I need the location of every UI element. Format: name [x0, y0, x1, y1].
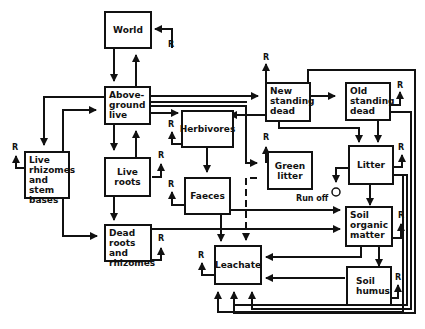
- label-r-green-litter: R: [263, 133, 269, 142]
- arrow-r-soil-humus: [391, 285, 398, 298]
- node-leachate: Leachate: [214, 245, 262, 285]
- arrow-r-soil-organic-matter: [393, 224, 401, 238]
- node-litter-label: Litter: [357, 160, 385, 170]
- node-old-standing-dead: Old standing dead: [345, 82, 391, 121]
- node-leachate-label: Leachate: [215, 260, 261, 270]
- label-r-dead-roots: R: [158, 234, 164, 243]
- arrow-r-leachate: [202, 263, 214, 275]
- node-live-roots-label: Live roots: [109, 167, 146, 187]
- label-r-new-standing-dead: R: [263, 53, 269, 62]
- node-herbivores: Herbivores: [181, 110, 234, 148]
- label-run-off: Run off: [296, 194, 328, 203]
- node-new-standing-dead: New standing dead: [265, 82, 311, 122]
- run-off-sink-icon: [332, 188, 340, 196]
- label-r-live-roots: R: [158, 151, 164, 160]
- label-r-litter: R: [398, 143, 404, 152]
- label-r-old-standing-dead: R: [397, 81, 403, 90]
- node-dead-roots: Dead roots and rhizomes: [104, 224, 152, 262]
- label-r-faeces: R: [168, 180, 174, 189]
- arrow-aboveground-to-live-rhizomes: [44, 97, 104, 145]
- node-world-label: World: [113, 25, 143, 35]
- arrow-soil-organic-matter-to-leachate: [266, 246, 361, 257]
- label-r-soil-organic-matter: R: [398, 211, 404, 220]
- arrow-r-live-roots: [152, 164, 161, 177]
- node-green-litter: Green litter: [267, 151, 313, 190]
- label-r-herbivores: R: [168, 120, 174, 129]
- arrow-new-standing-dead-to-litter: [279, 121, 359, 142]
- label-r-live-rhizomes: R: [12, 143, 18, 152]
- node-live-roots: Live roots: [104, 157, 151, 197]
- node-faeces-label: Faeces: [190, 191, 225, 201]
- node-soil-humus: Soil humus: [346, 266, 392, 306]
- node-litter: Litter: [348, 145, 394, 185]
- arrow-r-faeces: [172, 192, 184, 205]
- node-live-rhizomes: Live rhizomes and stem bases: [24, 151, 70, 199]
- label-r-soil-humus: R: [395, 273, 401, 282]
- arrow-live-rhizomes-to-dead-roots: [63, 197, 97, 236]
- node-aboveground-live: Above- ground live: [104, 86, 151, 125]
- node-faeces: Faeces: [184, 177, 231, 215]
- label-r-world: R: [168, 40, 174, 49]
- arrow-r-litter: [393, 155, 402, 167]
- arrow-live-rhizomes-to-aboveground: [63, 110, 96, 156]
- node-soil-organic-matter: Soil organic matter: [345, 206, 393, 247]
- node-herbivores-label: Herbivores: [180, 124, 236, 134]
- node-world: World: [104, 11, 152, 49]
- label-r-leachate: R: [198, 251, 204, 260]
